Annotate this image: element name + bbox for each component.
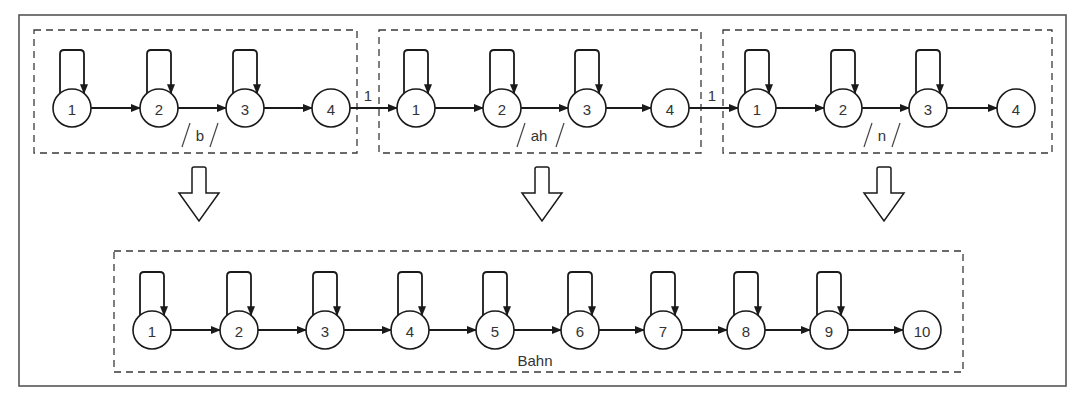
submodel-ah-state-4: 4 [651,89,689,127]
hmm-concatenation-diagram: 12341234123412345678910 bahn11Bahn [0,0,1078,404]
submodel-n-state-2: 2 [824,89,862,127]
link-probability-label: 1 [364,87,372,104]
submodel-ah-slash-0 [517,123,525,147]
combined-state-1: 1 [133,311,171,349]
combined-self-loop-5 [483,272,507,315]
combined-self-loop-1 [140,272,164,315]
state-label: 5 [491,323,499,340]
submodel-b-slash-1 [210,123,218,147]
submodel-n-slash-1 [892,123,900,147]
submodel-n-slash-0 [864,123,872,147]
submodel-n-state-3: 3 [909,89,947,127]
combined-self-loop-4 [398,272,422,315]
submodel-b-state-1: 1 [53,89,91,127]
state-label: 1 [412,101,420,118]
submodel-b-state-2: 2 [140,89,178,127]
state-label: 2 [839,101,847,118]
submodel-b-self-loop-2 [147,50,171,93]
submodel-box-n [723,30,1052,153]
state-label: 3 [924,101,932,118]
combined-self-loop-8 [734,272,758,315]
state-label: 3 [321,323,329,340]
combined-self-loop-3 [313,272,337,315]
submodel-label-ah: ah [531,127,548,144]
labels: bahn11Bahn [182,87,900,369]
submodel-ah-self-loop-3 [575,50,599,93]
submodel-b-self-loop-1 [60,50,84,93]
combined-self-loop-6 [568,272,592,315]
submodel-n-self-loop-1 [745,50,769,93]
submodel-ah-self-loop-1 [404,50,428,93]
state-label: 1 [753,101,761,118]
submodel-label-b: b [196,127,204,144]
down-arrow-icon-1 [179,167,219,221]
state-label: 10 [914,323,931,340]
state-label: 1 [68,101,76,118]
down-arrow-icon-3 [864,167,904,221]
state-label: 2 [498,101,506,118]
combined-state-6: 6 [561,311,599,349]
state-label: 4 [666,101,674,118]
submodel-ah-state-3: 3 [568,89,606,127]
state-label: 8 [742,323,750,340]
combined-state-9: 9 [810,311,848,349]
state-label: 2 [235,323,243,340]
state-label: 3 [241,101,249,118]
combined-state-5: 5 [476,311,514,349]
submodel-n-self-loop-3 [916,50,940,93]
combined-state-10: 10 [903,311,941,349]
combined-self-loop-2 [227,272,251,315]
submodel-ah-state-1: 1 [397,89,435,127]
down-arrow-icon-2 [522,167,562,221]
submodel-n-state-4: 4 [997,89,1035,127]
combined-state-3: 3 [306,311,344,349]
state-label: 9 [825,323,833,340]
state-label: 3 [583,101,591,118]
concatenation-arrows [179,167,904,221]
combined-state-7: 7 [644,311,682,349]
link-probability-label: 1 [708,87,716,104]
state-label: 6 [576,323,584,340]
submodel-b-self-loop-3 [233,50,257,93]
combined-state-2: 2 [220,311,258,349]
state-label: 4 [1012,101,1020,118]
combined-self-loop-9 [817,272,841,315]
submodel-label-n: n [878,127,886,144]
state-label: 7 [659,323,667,340]
combined-state-4: 4 [391,311,429,349]
combined-model-label: Bahn [517,352,552,369]
submodel-n-self-loop-2 [831,50,855,93]
submodel-ah-slash-1 [556,123,564,147]
submodel-b-state-3: 3 [226,89,264,127]
combined-state-8: 8 [727,311,765,349]
state-label: 2 [155,101,163,118]
state-label: 4 [327,101,335,118]
submodel-ah-state-2: 2 [483,89,521,127]
submodel-n-state-1: 1 [738,89,776,127]
submodel-ah-self-loop-2 [490,50,514,93]
state-label: 4 [406,323,414,340]
submodel-b-slash-0 [182,123,190,147]
state-label: 1 [148,323,156,340]
submodel-b-state-4: 4 [312,89,350,127]
combined-self-loop-7 [651,272,675,315]
